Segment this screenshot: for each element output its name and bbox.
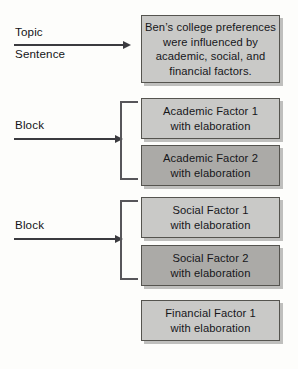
academic-factor-2-line-2: with elaboration: [171, 166, 251, 181]
paragraph-structure-diagram: Topic Sentence Block Block Ben’s college…: [0, 0, 298, 369]
topic-sentence-box-line-1: Ben’s college preferences: [145, 20, 276, 35]
topic-sentence-label-line2: Sentence: [15, 47, 65, 60]
academic-factor-1-box: Academic Factor 1 with elaboration: [141, 98, 280, 139]
arrow-line-block-academic: [14, 138, 116, 140]
arrow-line-block-social: [14, 238, 116, 240]
bracket-academic-block: [120, 101, 138, 180]
financial-factor-1-box: Financial Factor 1 with elaboration: [141, 300, 280, 341]
arrow-line-topic-sentence: [14, 44, 124, 46]
academic-factor-1-line-1: Academic Factor 1: [163, 104, 258, 119]
bracket-social-block: [120, 200, 138, 280]
arrow-head-topic-sentence: [123, 41, 131, 49]
social-factor-1-line-2: with elaboration: [171, 218, 251, 233]
social-factor-2-line-1: Social Factor 2: [172, 251, 248, 266]
academic-factor-2-line-1: Academic Factor 2: [163, 151, 258, 166]
topic-sentence-box-line-3: academic, social, and: [156, 49, 266, 64]
academic-factor-2-box: Academic Factor 2 with elaboration: [141, 145, 280, 186]
topic-sentence-box: Ben’s college preferences were influence…: [141, 15, 280, 83]
financial-factor-1-line-1: Financial Factor 1: [165, 306, 256, 321]
topic-sentence-label-line1: Topic: [15, 25, 43, 38]
social-factor-1-box: Social Factor 1 with elaboration: [141, 197, 280, 238]
topic-sentence-box-line-4: financial factors.: [169, 64, 252, 79]
financial-factor-1-line-2: with elaboration: [171, 321, 251, 336]
social-factor-1-line-1: Social Factor 1: [172, 203, 248, 218]
block-academic-label: Block: [15, 118, 44, 131]
label-group-block-social: Block: [0, 210, 140, 250]
label-group-block-academic: Block: [0, 110, 140, 150]
label-group-topic-sentence: Topic Sentence: [0, 0, 140, 70]
academic-factor-1-line-2: with elaboration: [171, 119, 251, 134]
block-social-label: Block: [15, 218, 44, 231]
topic-sentence-box-line-2: were influenced by: [163, 35, 258, 50]
social-factor-2-line-2: with elaboration: [171, 266, 251, 281]
social-factor-2-box: Social Factor 2 with elaboration: [141, 245, 280, 286]
